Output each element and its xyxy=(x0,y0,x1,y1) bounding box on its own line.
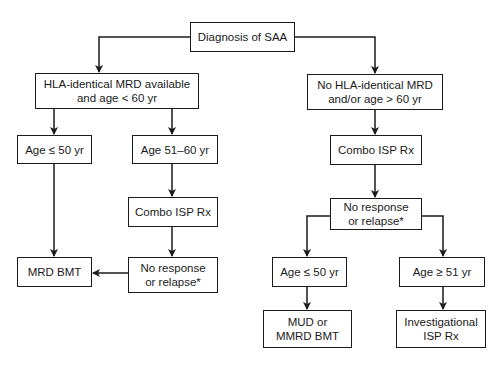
node-label: MRD BMT xyxy=(28,265,82,279)
node-label: HLA-identical MRD available and age < 60… xyxy=(44,77,190,105)
node-investigational-isp-rx: Investigational ISP Rx xyxy=(396,310,486,348)
edge-noresp-to-age50-right xyxy=(307,216,330,256)
node-label: Age ≤ 50 yr xyxy=(280,265,339,279)
edge-noresp-to-age51 xyxy=(422,216,443,256)
node-age-ge-51: Age ≥ 51 yr xyxy=(399,257,485,287)
node-label: No response or relapse* xyxy=(343,200,408,228)
edge-root-to-hla xyxy=(99,37,190,72)
node-age-51-60: Age 51–60 yr xyxy=(132,135,218,164)
node-label: Combo ISP Rx xyxy=(135,205,211,219)
node-no-hla-identical-mrd: No HLA-identical MRD and/or age > 60 yr xyxy=(307,74,443,110)
node-no-response-left: No response or relapse* xyxy=(128,257,218,293)
node-label: Investigational ISP Rx xyxy=(404,315,478,343)
node-label: Age 51–60 yr xyxy=(141,143,209,157)
node-label: MUD or MMRD BMT xyxy=(276,315,339,343)
node-label: Age ≤ 50 yr xyxy=(25,143,84,157)
node-label: Diagnosis of SAA xyxy=(198,30,288,44)
node-mrd-bmt: MRD BMT xyxy=(17,257,92,287)
node-age-le-50-left: Age ≤ 50 yr xyxy=(17,135,92,164)
node-hla-identical-mrd-available: HLA-identical MRD available and age < 60… xyxy=(35,73,199,109)
node-combo-isp-right: Combo ISP Rx xyxy=(330,135,422,165)
node-mud-or-mmrd-bmt: MUD or MMRD BMT xyxy=(263,310,352,348)
node-no-response-right: No response or relapse* xyxy=(330,198,422,230)
node-label: No HLA-identical MRD and/or age > 60 yr xyxy=(317,78,433,106)
node-label: Combo ISP Rx xyxy=(338,143,414,157)
edge-root-to-nohla xyxy=(295,37,375,73)
node-age-le-50-right: Age ≤ 50 yr xyxy=(272,257,347,287)
node-combo-isp-left: Combo ISP Rx xyxy=(128,197,218,227)
node-label: Age ≥ 51 yr xyxy=(413,265,472,279)
node-label: No response or relapse* xyxy=(140,261,205,289)
node-diagnosis-of-saa: Diagnosis of SAA xyxy=(190,22,295,52)
